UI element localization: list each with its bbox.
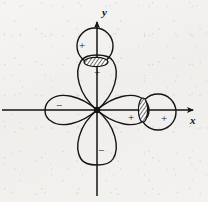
x-axis-label: x — [189, 114, 196, 126]
right-circle-phase-sign: + — [161, 112, 167, 124]
right-lobe-phase-sign: + — [128, 111, 134, 123]
right-overlap-hatched-ellipse — [138, 98, 147, 122]
orbital-diagram-figure: y x + + − — [0, 0, 208, 202]
upper-lobe-phase-sign: + — [94, 66, 100, 78]
lower-lobe-phase-sign: − — [98, 144, 104, 156]
orbital-diagram-canvas: y x + + − — [0, 0, 208, 202]
axes-group: y x — [2, 6, 196, 196]
origin-node — [94, 107, 100, 113]
y-axis-label: y — [100, 6, 107, 18]
top-circle-phase-sign: + — [79, 39, 85, 51]
left-lobe-phase-sign: − — [56, 99, 62, 111]
